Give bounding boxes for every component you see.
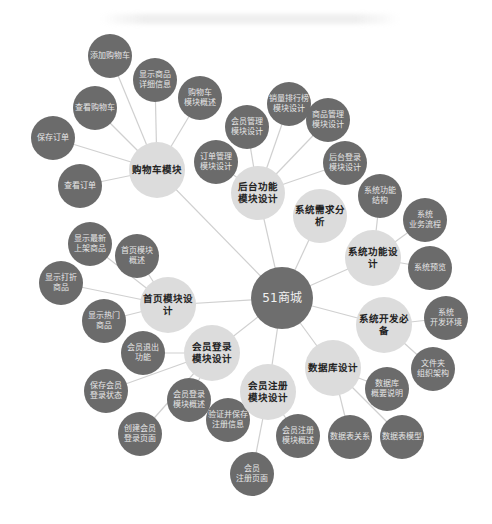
node-label: 查看订单 [64,181,96,191]
node-label: 显示最新 上架商品 [74,234,106,254]
leaf-node: 会员 注册页面 [230,452,274,496]
node-label: 数据表模型 [382,432,422,442]
leaf-node: 系统 业务流程 [403,198,447,242]
leaf-node: 订单管理 模块设计 [194,140,238,184]
leaf-node: 后台登录 模块设计 [323,141,367,185]
hub-node-login: 会员登录 模块设计 [184,325,240,381]
leaf-node: 数据表模型 [380,415,424,459]
node-label: 后台登录 模块设计 [329,153,361,173]
leaf-node: 创建会员 登录页面 [118,412,162,456]
leaf-node: 添加购物车 [88,34,132,78]
leaf-node: 会员登录 模块概述 [167,378,211,422]
leaf-node: 保存订单 [31,116,75,160]
node-label: 数据库 概要说明 [371,379,403,399]
hub-node-admin: 后台功能 模块设计 [231,166,285,220]
node-label: 51商城 [262,291,301,306]
node-label: 显示打折 商品 [45,273,77,293]
leaf-node: 系统 开发环境 [424,296,468,340]
node-label: 数据库设计 [308,362,358,374]
node-label: 保存订单 [37,133,69,143]
node-label: 系统 业务流程 [409,210,441,230]
leaf-node: 商品管理 模块设计 [306,98,350,142]
hub-node-func: 系统功能设计 [345,230,401,286]
hub-node-register: 会员注册 模块设计 [240,364,296,420]
node-label: 系统开发必备 [356,313,412,337]
hub-node-home: 首页模块设计 [140,277,196,333]
leaf-node: 首页模块 概述 [115,234,159,278]
root-node: 51商城 [251,267,313,329]
node-label: 会员管理 模块设计 [231,117,263,137]
leaf-node: 会员管理 模块设计 [225,105,269,149]
leaf-node: 显示商品 详细信息 [133,58,177,102]
leaf-node: 销量排行榜 模块设计 [267,82,311,126]
leaf-node: 数据表关系 [328,415,372,459]
node-label: 会员注册 模块概述 [282,426,314,446]
node-label: 创建会员 登录页面 [124,424,156,444]
leaf-node: 文件夹 组织架构 [411,347,455,391]
leaf-node: 系统功能 结构 [358,174,402,218]
leaf-node: 显示打折 商品 [39,261,83,305]
node-label: 系统功能设计 [345,246,401,270]
node-label: 保存会员 登录状态 [90,381,122,401]
node-label: 购物车 模块概述 [184,88,216,108]
node-label: 会员登录 模块设计 [192,341,232,365]
leaf-node: 购物车 模块概述 [178,76,222,120]
node-label: 会员注册 模块设计 [248,380,288,404]
node-label: 销量排行榜 模块设计 [269,94,309,114]
leaf-node: 会员注册 模块概述 [276,414,320,458]
node-label: 显示商品 详细信息 [139,70,171,90]
hub-node-dev: 系统开发必备 [356,297,412,353]
node-label: 系统功能 结构 [364,186,396,206]
node-label: 订单管理 模块设计 [200,152,232,172]
node-label: 显示热门 商品 [88,311,120,331]
node-label: 数据表关系 [330,432,370,442]
leaf-node: 系统预览 [408,246,452,290]
hub-node-db: 数据库设计 [305,340,361,396]
node-label: 商品管理 模块设计 [312,110,344,130]
node-label: 首页模块 概述 [121,246,153,266]
node-label: 系统预览 [414,263,446,273]
node-label: 会员退出 功能 [127,343,159,363]
leaf-node: 显示最新 上架商品 [68,222,112,266]
hub-node-cart: 购物车模块 [129,142,185,198]
node-label: 会员 注册页面 [236,464,268,484]
node-label: 验证并保存 注册信息 [208,410,248,430]
node-label: 查看购物车 [75,103,115,113]
leaf-node: 保存会员 登录状态 [84,369,128,413]
node-label: 系统需求分析 [293,204,347,228]
node-label: 文件夹 组织架构 [417,359,449,379]
node-label: 首页模块设计 [140,293,196,317]
leaf-node: 查看订单 [58,164,102,208]
hub-node-req: 系统需求分析 [293,189,347,243]
node-label: 会员登录 模块概述 [173,390,205,410]
node-label: 添加购物车 [90,51,130,61]
node-label: 购物车模块 [132,164,182,176]
leaf-node: 显示热门 商品 [82,299,126,343]
node-label: 系统 开发环境 [430,308,462,328]
leaf-node: 数据库 概要说明 [365,367,409,411]
leaf-node: 会员退出 功能 [121,331,165,375]
leaf-node: 查看购物车 [73,86,117,130]
node-label: 后台功能 模块设计 [238,181,278,205]
